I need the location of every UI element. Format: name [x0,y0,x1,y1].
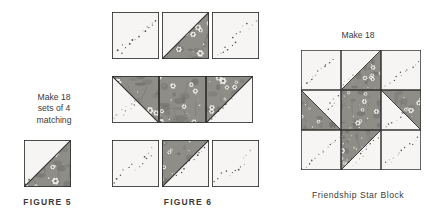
figure-5-note: Make 18 sets of 4 matching [0,92,108,126]
figure-6-top-center [162,12,209,59]
figure-6-bottom-left [112,140,159,187]
figure-5-caption: FIGURE 5 [0,197,95,207]
figure-6-bottom-center [162,140,209,187]
figure-6-caption: FIGURE 6 [118,197,258,207]
star-center-square [341,90,381,130]
figure-6-top-left [112,12,159,59]
star-corner-bottom-right [381,130,421,170]
star-corner-top-right [381,50,421,90]
star-block-note: Make 18 [283,30,433,41]
star-block-label: Friendship Star Block [283,190,433,200]
star-point-right [381,90,421,130]
figure-6-middle-center [159,76,206,123]
figure-5-hst-unit [24,140,71,187]
figure-6-bottom-right [212,140,259,187]
figure-5-panel: Make 18 sets of 4 matching FIGURE 5 [0,0,108,218]
star-corner-top-left [301,50,341,90]
figure-6-panel: FIGURE 6 [108,0,283,218]
star-corner-bottom-left [301,130,341,170]
star-point-left [301,90,341,130]
figure-5-note-line-2: sets of 4 [0,103,108,114]
figure-5-note-line-1: Make 18 [0,92,108,103]
quilt-instruction-figure: Make 18 sets of 4 matching FIGURE 5 FIGU… [0,0,433,218]
figure-6-top-right [212,12,259,59]
figure-6-middle-right [206,76,253,123]
friendship-star-panel: Make 18 Friendship Star Block [283,0,433,218]
figure-6-middle-left [112,76,159,123]
figure-5-note-line-3: matching [0,115,108,126]
star-point-top [341,50,381,90]
star-point-bottom [341,130,381,170]
